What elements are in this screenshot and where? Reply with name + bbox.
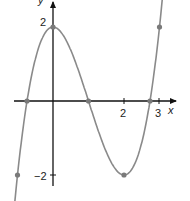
tick-label-yneg2: −2 [34, 170, 47, 182]
data-point [147, 98, 152, 103]
data-point [86, 98, 91, 103]
x-axis-label: x [167, 104, 174, 116]
tick-label-x2: 2 [120, 107, 126, 119]
function-graph: y 2 −2 2 3 x [0, 0, 190, 201]
tick-label-y2: 2 [40, 16, 46, 28]
data-point [15, 172, 20, 177]
tick-label-x3: 3 [155, 107, 161, 119]
data-point [157, 24, 162, 29]
data-point [24, 98, 29, 103]
data-point [121, 172, 126, 177]
y-axis-label: y [37, 0, 45, 6]
data-point [50, 24, 55, 29]
